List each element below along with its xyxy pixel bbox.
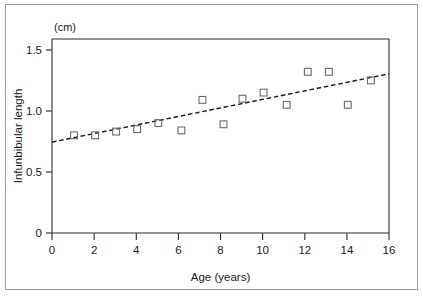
y-axis-ticks	[46, 50, 52, 233]
y-axis-tick-labels: 0 0.5 1.0 1.5	[26, 44, 42, 239]
data-point	[260, 89, 267, 96]
figure-container: 0 0.5 1.0 1.5 0 2 4 6 8 10 12 14	[0, 0, 423, 301]
x-axis-ticks	[52, 233, 389, 240]
x-axis-title: Age (years)	[191, 271, 251, 283]
y-axis-unit-label: (cm)	[54, 21, 76, 33]
data-point	[220, 121, 227, 128]
y-tick-label-1-5: 1.5	[26, 44, 42, 56]
data-point	[239, 95, 246, 102]
x-tick-label-12: 12	[298, 244, 311, 256]
scatter-plot: 0 0.5 1.0 1.5 0 2 4 6 8 10 12 14	[0, 0, 423, 301]
data-point	[134, 126, 141, 133]
y-tick-label-0: 0	[36, 227, 42, 239]
data-point	[178, 127, 185, 134]
y-axis-title: Infunbibular length	[12, 89, 24, 184]
x-tick-label-0: 0	[49, 244, 55, 256]
x-tick-label-10: 10	[256, 244, 269, 256]
plot-frame	[52, 39, 389, 233]
y-tick-label-1-0: 1.0	[26, 105, 42, 117]
x-tick-label-6: 6	[175, 244, 181, 256]
x-tick-label-8: 8	[217, 244, 223, 256]
x-axis-tick-labels: 0 2 4 6 8 10 12 14 16	[49, 244, 396, 256]
data-point	[344, 101, 351, 108]
data-point	[304, 68, 311, 75]
x-tick-label-16: 16	[383, 244, 396, 256]
data-point	[199, 97, 206, 104]
data-point	[325, 68, 332, 75]
x-tick-label-4: 4	[133, 244, 140, 256]
x-tick-label-2: 2	[91, 244, 97, 256]
y-tick-label-0-5: 0.5	[26, 166, 42, 178]
data-markers	[71, 68, 375, 138]
data-point	[283, 101, 290, 108]
regression-line	[52, 74, 389, 142]
x-tick-label-14: 14	[341, 244, 354, 256]
